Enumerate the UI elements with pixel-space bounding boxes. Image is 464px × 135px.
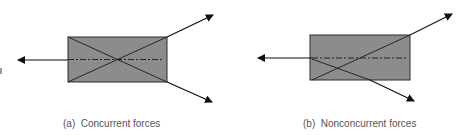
figure-a-concurrent — [18, 15, 213, 102]
forces-diagram — [0, 0, 464, 135]
caption-nonconcurrent-forces: (b) Nonconcurrent forces — [303, 118, 416, 129]
force-arrow-upper-right — [167, 15, 213, 37]
force-arrow-upper-right — [410, 14, 452, 35]
figure-b-nonconcurrent — [258, 14, 452, 101]
force-arrow-lower-right — [370, 80, 414, 101]
caption-concurrent-forces: (a) Concurrent forces — [63, 118, 160, 129]
force-arrow-lower-right — [167, 82, 212, 102]
